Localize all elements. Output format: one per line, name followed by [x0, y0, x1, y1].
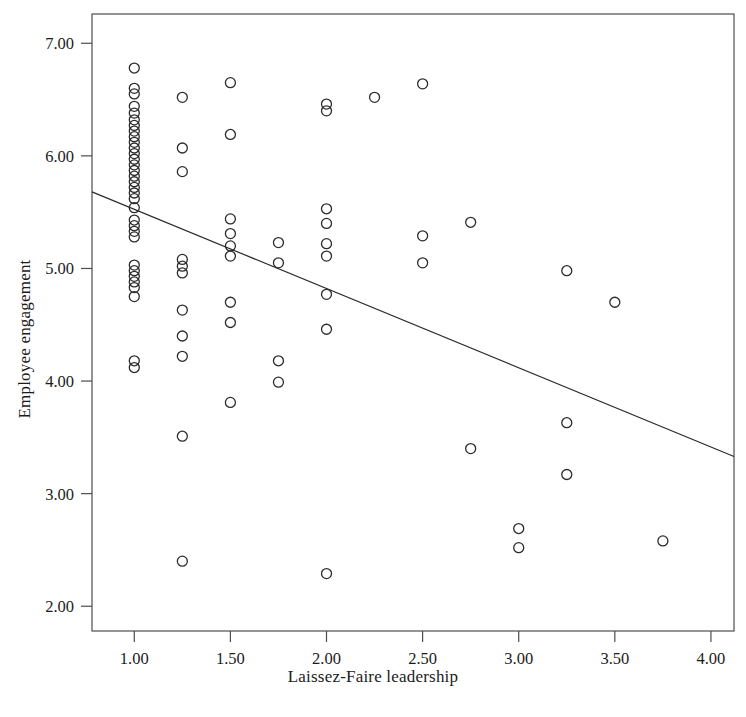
- y-tick-label: 4.00: [45, 372, 74, 391]
- y-tick-label: 5.00: [45, 259, 74, 278]
- x-tick-label: 3.00: [504, 649, 533, 668]
- y-tick-label: 7.00: [45, 34, 74, 53]
- x-tick-label: 3.50: [600, 649, 629, 668]
- x-tick-label: 2.00: [312, 649, 341, 668]
- x-tick-label: 1.00: [120, 649, 149, 668]
- y-axis-title: Employee engagement: [15, 209, 35, 469]
- y-tick-label: 6.00: [45, 147, 74, 166]
- plot-area-border: [92, 14, 734, 631]
- x-tick-label: 1.50: [216, 649, 245, 668]
- plot-canvas: 1.001.502.002.503.003.504.002.003.004.00…: [0, 0, 746, 717]
- plot-frame: [92, 14, 734, 631]
- y-tick-label: 2.00: [45, 597, 74, 616]
- x-axis-title: Laissez-Faire leadership: [0, 667, 746, 687]
- scatter-plot-figure: 1.001.502.002.503.003.504.002.003.004.00…: [0, 0, 746, 717]
- x-tick-label: 4.00: [696, 649, 725, 668]
- y-tick-label: 3.00: [45, 485, 74, 504]
- x-tick-label: 2.50: [408, 649, 437, 668]
